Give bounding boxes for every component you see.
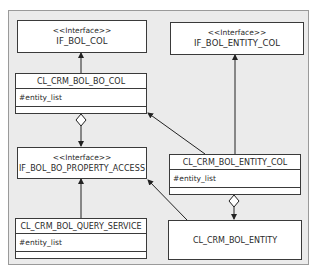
interface-if-bol-entity-col: <<Interface>> IF_BOL_ENTITY_COL: [170, 22, 304, 55]
edge-entity-col-to-bo-col: [148, 113, 205, 154]
class-name: CL_CRM_BOL_QUERY_SERVICE: [16, 219, 146, 234]
class-attribute: #entity_list: [16, 234, 146, 252]
class-operations: [16, 107, 146, 114]
class-cl-crm-bol-query-service: CL_CRM_BOL_QUERY_SERVICE #entity_list: [15, 218, 147, 259]
class-name: CL_CRM_BOL_BO_COL: [16, 74, 146, 89]
interface-if-bol-bo-property-access: <<Interface>> IF_BOL_BO_PROPERTY_ACCESS: [17, 147, 147, 179]
aggregation-diamond-icon: [76, 114, 86, 126]
class-operations: [16, 252, 146, 259]
stereotype-label: <<Interface>>: [53, 26, 112, 36]
stereotype-label: <<Interface>>: [53, 153, 112, 163]
class-attribute: #entity_list: [170, 170, 300, 188]
class-name: CL_CRM_BOL_ENTITY: [193, 236, 277, 245]
interface-if-bol-col: <<Interface>> IF_BOL_COL: [17, 20, 147, 53]
class-attribute: #entity_list: [16, 89, 146, 107]
interface-name: IF_BOL_BO_PROPERTY_ACCESS: [19, 163, 145, 174]
interface-name: IF_BOL_ENTITY_COL: [194, 38, 280, 49]
class-name: CL_CRM_BOL_ENTITY_COL: [170, 155, 300, 170]
interface-name: IF_BOL_COL: [56, 36, 107, 47]
aggregation-diamond-icon: [229, 195, 239, 207]
class-cl-crm-bol-entity: CL_CRM_BOL_ENTITY: [168, 220, 302, 260]
class-cl-crm-bol-entity-col: CL_CRM_BOL_ENTITY_COL #entity_list: [169, 154, 301, 195]
class-operations: [170, 188, 300, 195]
class-cl-crm-bol-bo-col: CL_CRM_BOL_BO_COL #entity_list: [15, 73, 147, 114]
stereotype-label: <<Interface>>: [208, 28, 267, 38]
